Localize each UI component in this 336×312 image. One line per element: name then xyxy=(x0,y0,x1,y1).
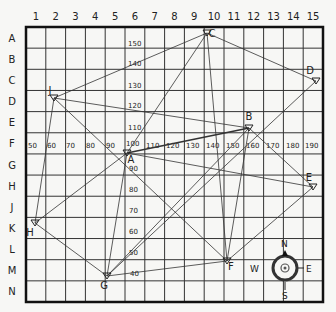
horizontal-scale-label: 180 xyxy=(286,142,299,150)
point-label: J xyxy=(48,85,52,96)
point-label: C xyxy=(209,28,216,39)
column-label: 4 xyxy=(92,11,98,22)
vertical-scale-label: 120 xyxy=(128,102,141,110)
scale-labels: 1501401301201101009080706050405060708090… xyxy=(28,40,318,278)
point-label: H xyxy=(26,227,34,238)
column-label: 6 xyxy=(132,11,138,22)
row-label: B xyxy=(9,54,16,65)
row-labels: ABCDEFGHJKLMN xyxy=(8,33,17,298)
vertical-scale-label: 90 xyxy=(129,165,138,173)
row-label: D xyxy=(8,96,16,107)
vertical-scale-label: 70 xyxy=(129,207,138,215)
survey-line xyxy=(35,98,54,223)
row-label: C xyxy=(9,75,16,86)
point-label: A xyxy=(128,154,135,165)
column-label: 1 xyxy=(33,11,39,22)
compass-west: W xyxy=(250,264,259,274)
vertical-scale-label: 40 xyxy=(130,270,139,278)
horizontal-scale-label: 60 xyxy=(47,142,56,150)
horizontal-scale-label: 50 xyxy=(28,142,37,150)
horizontal-scale-label: 80 xyxy=(86,142,95,150)
survey-line xyxy=(207,33,316,81)
horizontal-scale-label: 160 xyxy=(246,142,259,150)
compass-south: S xyxy=(282,291,288,301)
point-label: E xyxy=(306,172,312,183)
survey-line xyxy=(227,187,313,261)
survey-line xyxy=(54,98,227,261)
point-label: F xyxy=(228,261,234,272)
column-label: 8 xyxy=(171,11,177,22)
vertical-scale-label: 150 xyxy=(128,40,141,48)
row-label: E xyxy=(9,117,15,128)
row-label: N xyxy=(8,286,15,297)
point-label: G xyxy=(100,280,108,291)
column-label: 14 xyxy=(287,11,300,22)
horizontal-scale-label: 130 xyxy=(186,142,199,150)
row-label: F xyxy=(9,138,15,149)
survey-line xyxy=(35,153,127,223)
grid-map: 123456789101112131415 ABCDEFGHJKLMN 1501… xyxy=(0,0,336,312)
row-label: K xyxy=(9,223,16,234)
survey-line xyxy=(107,153,127,276)
row-label: G xyxy=(8,160,16,171)
horizontal-scale-label: 150 xyxy=(226,142,239,150)
vertical-scale-label: 50 xyxy=(129,249,138,257)
survey-points: ABCDEFGHJ xyxy=(26,28,320,291)
column-label: 3 xyxy=(72,11,78,22)
column-label: 9 xyxy=(191,11,197,22)
column-label: 11 xyxy=(228,11,241,22)
row-label: M xyxy=(8,265,17,276)
column-label: 15 xyxy=(307,11,320,22)
horizontal-scale-label: 70 xyxy=(66,142,75,150)
survey-line xyxy=(127,33,207,153)
vertical-scale-label: 110 xyxy=(128,124,141,132)
row-label: H xyxy=(8,181,16,192)
row-label: L xyxy=(9,244,15,255)
vertical-scale-label: 130 xyxy=(128,82,141,90)
column-labels: 123456789101112131415 xyxy=(33,11,320,22)
horizontal-scale-label: 190 xyxy=(305,142,318,150)
survey-line xyxy=(54,98,249,128)
vertical-scale-label: 60 xyxy=(129,228,138,236)
vertical-scale-label: 80 xyxy=(129,186,138,194)
column-label: 7 xyxy=(152,11,158,22)
column-label: 5 xyxy=(112,11,118,22)
compass-north: N xyxy=(281,239,288,249)
point-label: B xyxy=(246,111,253,122)
column-label: 10 xyxy=(208,11,221,22)
row-label: A xyxy=(9,33,16,44)
column-label: 13 xyxy=(267,11,280,22)
point-label: D xyxy=(306,65,314,76)
row-label: J xyxy=(10,202,14,213)
column-label: 12 xyxy=(247,11,260,22)
compass-east: E xyxy=(306,264,312,274)
column-label: 2 xyxy=(53,11,59,22)
